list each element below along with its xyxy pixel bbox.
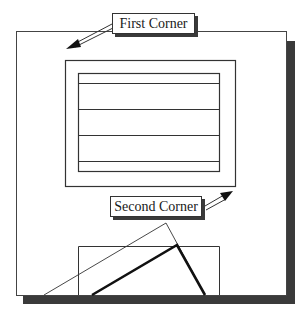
diagram-canvas	[0, 0, 303, 314]
first-corner-text: First Corner	[119, 16, 187, 32]
first-corner-label: First Corner	[112, 13, 195, 34]
main-frame	[17, 32, 287, 296]
frame-shadow-right	[287, 41, 295, 304]
frame-shadow-bottom	[23, 295, 295, 304]
second-corner-text: Second Corner	[114, 199, 198, 215]
second-corner-label: Second Corner	[110, 196, 202, 217]
